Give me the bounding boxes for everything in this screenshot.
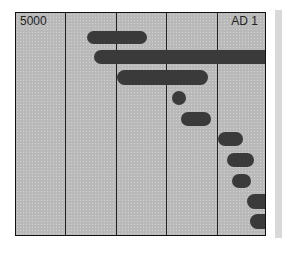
timeline-bar-4 bbox=[172, 91, 186, 105]
timeline-bar-5 bbox=[181, 112, 211, 126]
axis-start-label: 5000 bbox=[20, 14, 47, 28]
side-strip bbox=[275, 10, 282, 238]
timeline-bar-1 bbox=[87, 31, 147, 44]
timeline-bar-2 bbox=[94, 50, 266, 64]
timeline-bar-10 bbox=[250, 214, 266, 229]
timeline-chart: 5000 AD 1 bbox=[15, 12, 266, 236]
gridline bbox=[116, 13, 117, 235]
gridline bbox=[166, 13, 167, 235]
timeline-bar-6 bbox=[218, 132, 243, 146]
timeline-bar-3 bbox=[117, 70, 208, 85]
axis-end-label: AD 1 bbox=[231, 14, 258, 28]
gridline bbox=[65, 13, 66, 235]
timeline-bar-8 bbox=[232, 174, 251, 188]
gridline bbox=[217, 13, 218, 235]
timeline-bar-7 bbox=[227, 153, 254, 167]
timeline-bar-9 bbox=[247, 194, 266, 209]
